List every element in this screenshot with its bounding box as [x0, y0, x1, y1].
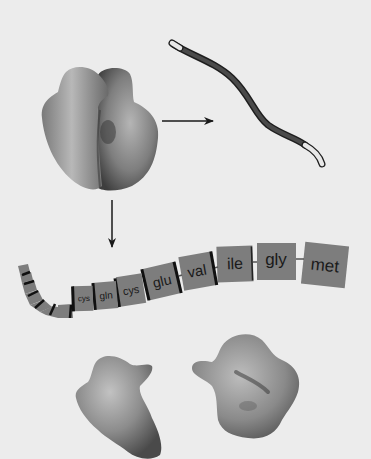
residue-label: ile — [227, 255, 244, 273]
residue-label: gln — [99, 289, 113, 301]
residue-met: met — [301, 242, 349, 288]
residue-gly: gly — [257, 243, 296, 280]
folded-protein-1-icon — [76, 356, 162, 459]
mrna-strand-icon — [172, 43, 322, 164]
protein-synthesis-diagram: met gly ile val glu cys — [0, 0, 371, 459]
residue-glu: glu — [142, 262, 182, 301]
residue-gln: gln — [92, 281, 118, 310]
residue-label: met — [310, 255, 340, 277]
residue-ile: ile — [216, 245, 253, 282]
residue-cys-2: cys — [73, 286, 94, 312]
folded-protein-2-icon — [192, 334, 299, 438]
residue-label: val — [186, 261, 208, 281]
residue-label: cys — [78, 294, 90, 303]
polypeptide-chain: met gly ile val glu cys — [18, 242, 349, 318]
residue-label: gly — [265, 250, 287, 269]
ribosome-icon — [42, 67, 158, 191]
residue-cys: cys — [115, 273, 146, 307]
residue-val: val — [178, 251, 217, 290]
